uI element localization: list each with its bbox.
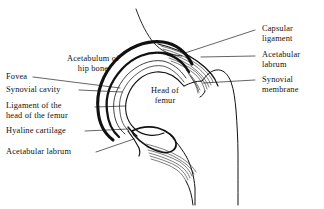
- label-synovial-membrane: Synovial membrane: [262, 75, 299, 94]
- leader-synovial-membrane: [203, 80, 255, 83]
- label-capsular-ligament: Capsular ligament: [262, 24, 293, 43]
- leader-hyaline-cartilage: [85, 129, 129, 131]
- label-acetabular-labrum-right: Acetabular labrum: [262, 50, 300, 69]
- label-acetabular-labrum-left: Acetabular labrum: [6, 147, 71, 157]
- label-hyaline-cartilage: Hyaline cartilage: [6, 126, 66, 136]
- label-ligament-of-head-of-femur: Ligament of the head of the femur: [6, 101, 68, 120]
- femur-trochanter-shaft-outline: [202, 70, 238, 205]
- label-synovial-cavity: Synovial cavity: [6, 85, 61, 95]
- label-head-of-femur: Head of femur: [137, 86, 193, 105]
- leader-capsular-ligament: [185, 30, 255, 53]
- leader-ligament-head-femur: [95, 106, 126, 107]
- capsular-reflection: [200, 91, 205, 97]
- hip-joint-diagram: Acetabulum of hip bone Fovea Synovial ca…: [0, 0, 324, 209]
- leader-acetabular-labrum-left: [96, 139, 134, 152]
- capsule-lower-outer-edge: [186, 181, 193, 205]
- fovea-notch: [128, 127, 137, 136]
- label-fovea: Fovea: [6, 72, 27, 82]
- leader-acetabular-labrum-right: [201, 56, 255, 57]
- label-acetabulum-of-hip-bone: Acetabulum of hip bone: [51, 54, 135, 73]
